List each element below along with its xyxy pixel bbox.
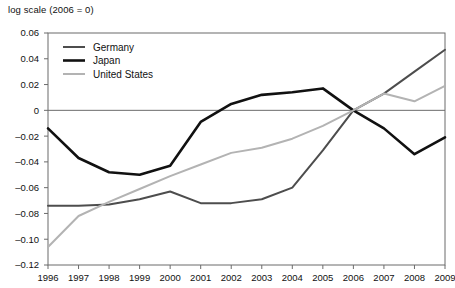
x-axis-tick-label: 1997 bbox=[68, 272, 89, 283]
legend-label-united-states: United States bbox=[93, 69, 153, 80]
x-axis-tick-label: 2004 bbox=[282, 272, 303, 283]
series-line-japan bbox=[48, 88, 445, 174]
legend-label-japan: Japan bbox=[93, 55, 120, 66]
x-axis-tick-labels: 1996199719981999200020012002200320042005… bbox=[37, 272, 455, 283]
y-axis-tick-label: –0.02 bbox=[15, 131, 39, 142]
line-chart-plot: 0.060.040.020–0.02–0.04–0.06–0.08–0.10–0… bbox=[0, 0, 455, 288]
y-axis-tick-label: –0.10 bbox=[15, 234, 39, 245]
x-axis-tick-label: 2008 bbox=[404, 272, 425, 283]
chart-container: log scale (2006 = 0) 0.060.040.020–0.02–… bbox=[0, 0, 455, 288]
x-axis-tick-label: 2002 bbox=[221, 272, 242, 283]
x-axis-tick-label: 2001 bbox=[190, 272, 211, 283]
x-axis-tick-label: 2006 bbox=[343, 272, 364, 283]
y-axis-tick-label: –0.08 bbox=[15, 208, 39, 219]
legend-label-germany: Germany bbox=[93, 42, 134, 53]
x-axis-tick-label: 2000 bbox=[160, 272, 181, 283]
x-axis-tick-label: 2007 bbox=[373, 272, 394, 283]
x-axis-tick-label: 1996 bbox=[37, 272, 58, 283]
y-axis-tick-label: –0.04 bbox=[15, 156, 39, 167]
y-axis-tick-label: 0.06 bbox=[21, 27, 40, 38]
x-axis-tick-marks bbox=[48, 265, 445, 269]
x-axis-tick-label: 2003 bbox=[251, 272, 272, 283]
x-axis-tick-label: 2009 bbox=[434, 272, 455, 283]
y-axis-tick-label: –0.06 bbox=[15, 182, 39, 193]
y-axis-tick-label: –0.12 bbox=[15, 259, 39, 270]
y-axis-tick-label: 0 bbox=[34, 105, 39, 116]
y-axis-tick-label: 0.02 bbox=[21, 79, 40, 90]
x-axis-tick-label: 1998 bbox=[99, 272, 120, 283]
x-axis-tick-label: 2005 bbox=[312, 272, 333, 283]
y-axis-tick-label: 0.04 bbox=[21, 53, 40, 64]
y-axis-tick-marks bbox=[44, 33, 48, 265]
y-axis-tick-labels: 0.060.040.020–0.02–0.04–0.06–0.08–0.10–0… bbox=[15, 27, 39, 270]
chart-legend: GermanyJapanUnited States bbox=[63, 42, 153, 80]
x-axis-tick-label: 1999 bbox=[129, 272, 150, 283]
